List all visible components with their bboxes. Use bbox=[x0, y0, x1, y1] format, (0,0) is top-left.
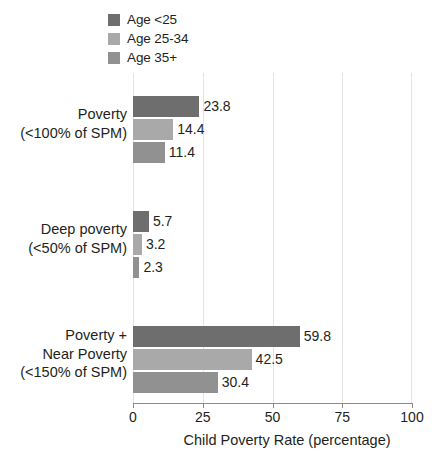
bar-value-label: 3.2 bbox=[142, 234, 165, 255]
category-label-line: (<100% of SPM) bbox=[2, 124, 127, 143]
x-axis-tick-label: 100 bbox=[400, 409, 423, 425]
category-label-line: (<150% of SPM) bbox=[2, 363, 127, 382]
legend-swatch-icon bbox=[108, 52, 120, 64]
child-poverty-bar-chart: Age <25 Age 25-34 Age 35+ 23.8 14.4 11.4… bbox=[0, 0, 441, 465]
category-label-line: Poverty + bbox=[2, 326, 127, 345]
x-axis-title-wrapper: Child Poverty Rate (percentage) bbox=[0, 432, 441, 449]
legend-swatch-icon bbox=[108, 14, 120, 26]
gridline-75 bbox=[342, 73, 343, 403]
x-axis-tick bbox=[203, 403, 204, 408]
category-label-line: Near Poverty bbox=[2, 345, 127, 364]
legend-item-age-25-34[interactable]: Age 25-34 bbox=[108, 30, 188, 47]
bar-deep-poverty-age-25-34[interactable] bbox=[133, 234, 142, 255]
bar-poverty-age-35-plus[interactable] bbox=[133, 142, 165, 163]
x-axis-tick bbox=[342, 403, 343, 408]
bar-value-label: 42.5 bbox=[252, 349, 283, 370]
x-axis-tick-label: 0 bbox=[129, 409, 137, 425]
bar-near-poverty-age-25-34[interactable] bbox=[133, 349, 252, 370]
bar-value-label: 2.3 bbox=[139, 257, 162, 278]
x-axis-tick-label: 75 bbox=[334, 409, 350, 425]
category-label-line: Poverty bbox=[2, 105, 127, 124]
bar-value-label: 30.4 bbox=[218, 372, 249, 393]
bar-value-label: 14.4 bbox=[173, 119, 204, 140]
category-label-line: Deep poverty bbox=[2, 220, 127, 239]
category-label-poverty: Poverty (<100% of SPM) bbox=[2, 105, 127, 142]
plot-area: 23.8 14.4 11.4 5.7 3.2 2.3 59.8 42.5 30.… bbox=[133, 73, 412, 403]
x-axis-tick-label: 25 bbox=[195, 409, 211, 425]
bar-value-label: 59.8 bbox=[300, 326, 331, 347]
category-label-near-poverty: Poverty + Near Poverty (<150% of SPM) bbox=[2, 326, 127, 382]
gridline-100 bbox=[411, 73, 412, 403]
legend-label: Age 35+ bbox=[127, 51, 177, 65]
x-axis-tick bbox=[273, 403, 274, 408]
category-label-line: (<50% of SPM) bbox=[2, 239, 127, 258]
category-label-deep-poverty: Deep poverty (<50% of SPM) bbox=[2, 220, 127, 257]
legend-item-age-35-plus[interactable]: Age 35+ bbox=[108, 49, 188, 66]
x-axis-title: Child Poverty Rate (percentage) bbox=[148, 432, 427, 449]
bar-poverty-age-under-25[interactable] bbox=[133, 96, 199, 117]
x-axis-tick bbox=[133, 403, 134, 408]
bar-near-poverty-age-under-25[interactable] bbox=[133, 326, 300, 347]
bar-value-label: 11.4 bbox=[165, 142, 195, 163]
legend-label: Age <25 bbox=[127, 13, 177, 27]
chart-legend: Age <25 Age 25-34 Age 35+ bbox=[108, 11, 188, 66]
bar-value-label: 5.7 bbox=[149, 211, 172, 232]
legend-item-age-under-25[interactable]: Age <25 bbox=[108, 11, 188, 28]
bar-poverty-age-25-34[interactable] bbox=[133, 119, 173, 140]
legend-swatch-icon bbox=[108, 33, 120, 45]
bar-deep-poverty-age-under-25[interactable] bbox=[133, 211, 149, 232]
legend-label: Age 25-34 bbox=[127, 32, 188, 46]
bar-near-poverty-age-35-plus[interactable] bbox=[133, 372, 218, 393]
x-axis-tick-label: 50 bbox=[265, 409, 281, 425]
bar-value-label: 23.8 bbox=[199, 96, 230, 117]
x-axis-tick bbox=[412, 403, 413, 408]
